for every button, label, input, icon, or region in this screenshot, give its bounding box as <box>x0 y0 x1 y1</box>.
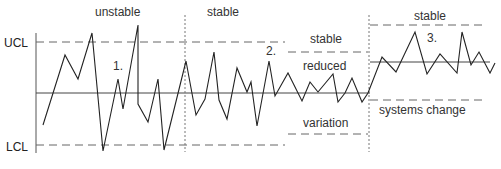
stable-label-phase3: stable <box>414 9 446 23</box>
phase-2-number: 2. <box>266 44 276 58</box>
lcl-label: LCL <box>6 140 28 154</box>
reduced-label: reduced <box>303 59 346 73</box>
stable-label-phase2: stable <box>310 32 342 46</box>
variation-label: variation <box>303 116 348 130</box>
phase-3-number: 3. <box>427 31 437 45</box>
ucl-label: UCL <box>4 36 28 50</box>
stable-label-phase1: stable <box>207 5 239 19</box>
control-chart: UCL LCL unstable stable stable reduced v… <box>0 0 501 169</box>
systems-change-label: systems change <box>379 103 466 117</box>
unstable-label: unstable <box>95 5 141 19</box>
phase-1-number: 1. <box>113 59 123 73</box>
